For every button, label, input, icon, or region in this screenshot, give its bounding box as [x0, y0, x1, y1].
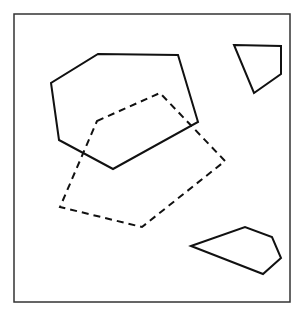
dashed-pentagon: [60, 93, 225, 227]
diagram-canvas: [0, 0, 302, 317]
solid-pentagon-small: [191, 227, 281, 274]
solid-hexagon: [51, 54, 198, 169]
frame-border: [14, 14, 290, 302]
solid-quadrilateral: [234, 45, 281, 93]
shapes-group: [51, 45, 281, 274]
